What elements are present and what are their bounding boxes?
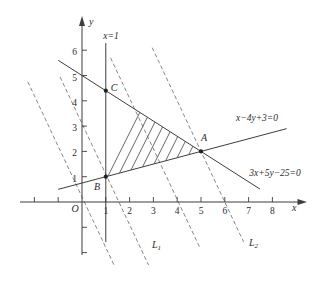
x-tick-label: 3 (151, 206, 156, 216)
objective-line-l2-label: L2 (248, 237, 259, 250)
hatch-line (104, 80, 157, 185)
y-tick-label: 6 (72, 47, 77, 57)
x-tick-label: 7 (246, 206, 251, 216)
x-tick-label: 6 (222, 206, 227, 216)
l2-subscript: 2 (255, 242, 259, 250)
point-c-dot (104, 89, 108, 93)
objective-line-l1-label: L1 (151, 239, 161, 252)
objective-lines-group (28, 48, 244, 267)
x-tick-label: 2 (127, 206, 132, 216)
boundary-line-2 (58, 129, 286, 190)
hatch-line (114, 80, 167, 185)
vertex-points-group (104, 89, 203, 179)
y-tick-label: 2 (72, 148, 77, 158)
x-tick-label: 8 (270, 206, 275, 216)
line-3x-5y-25-label: 3x+5y−25=0 (248, 168, 301, 178)
y-tick-label: 5 (72, 73, 77, 83)
feasible-region-hatch (104, 80, 237, 185)
x-axis-arrow (298, 199, 308, 205)
y-axis-arrow (79, 16, 85, 26)
point-b-label: B (94, 181, 100, 192)
boundary-lines-group (58, 43, 286, 242)
point-a-label: A (200, 132, 208, 143)
axes-group: 12345678123456 (20, 16, 307, 255)
hatch-line (144, 80, 197, 185)
y-tick-label: 1 (72, 174, 77, 184)
lp-plot-canvas: 12345678123456 y x O x=1 x−4y+3=0 3x+5y−… (0, 0, 320, 287)
objective-dashed-line-3 (111, 58, 200, 247)
boundary-line-3 (58, 60, 260, 189)
hatch-line (154, 80, 207, 185)
line-x-equals-1-label: x=1 (102, 31, 118, 41)
y-tick-label: 3 (72, 123, 77, 133)
point-a-dot (199, 149, 203, 153)
x-axis-label: x (291, 202, 297, 213)
hatch-line (174, 80, 227, 185)
x-tick-label: 5 (199, 206, 204, 216)
x-tick-label: 4 (175, 206, 180, 216)
line-x-4y-3-label: x−4y+3=0 (235, 113, 278, 123)
linear-programming-figure: 12345678123456 y x O x=1 x−4y+3=0 3x+5y−… (0, 0, 320, 287)
l1-subscript: 1 (158, 244, 162, 252)
y-axis-label: y (88, 16, 94, 27)
hatch-line (124, 80, 177, 185)
origin-label: O (71, 203, 78, 214)
hatch-line (134, 80, 187, 185)
point-c-label: C (111, 82, 118, 93)
y-tick-label: 4 (72, 98, 77, 108)
point-b-dot (104, 175, 108, 179)
